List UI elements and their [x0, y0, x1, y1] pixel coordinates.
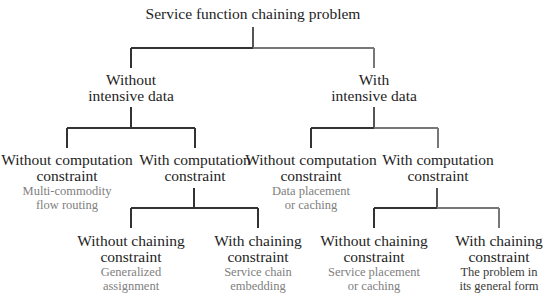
node-without-intensive-data: Without intensive data: [88, 72, 174, 104]
node-with-data-without-computation: Without computation constraint Data plac…: [245, 152, 377, 212]
node-service-placement: Without chaining constraint Service plac…: [320, 233, 427, 293]
node-title-line2: constraint: [1, 168, 133, 184]
node-title-line2: constraint: [214, 249, 302, 265]
node-title-line1: Without computation: [1, 152, 133, 168]
node-with-data-with-computation: With computation constraint: [382, 152, 494, 184]
node-title-line1: With computation: [139, 152, 251, 168]
root-label: Service function chaining problem: [146, 6, 361, 22]
node-description-line2: or caching: [320, 279, 427, 293]
node-title-line1: With chaining: [214, 233, 302, 249]
node-title-line2: constraint: [77, 249, 184, 265]
node-without-data-without-computation: Without computation constraint Multi-com…: [1, 152, 133, 212]
node-general-form: With chaining constraint The problem in …: [455, 233, 543, 293]
node-title-line2: constraint: [320, 249, 427, 265]
node-title-line1: Without chaining: [77, 233, 184, 249]
node-description-line2: its general form: [455, 279, 543, 293]
node-generalized-assignment: Without chaining constraint Generalized …: [77, 233, 184, 293]
node-title-line2: constraint: [382, 168, 494, 184]
node-title-line1: Without chaining: [320, 233, 427, 249]
node-title-line1: Without: [88, 72, 174, 88]
node-title-line1: Without computation: [245, 152, 377, 168]
node-description-line2: or caching: [245, 198, 377, 212]
node-without-data-with-computation: With computation constraint: [139, 152, 251, 184]
node-title-line2: intensive data: [88, 88, 174, 104]
node-with-intensive-data: With intensive data: [331, 72, 417, 104]
node-description-line1: The problem in: [455, 265, 543, 279]
node-description-line1: Generalized: [77, 265, 184, 279]
node-description-line1: Multi-commodity: [1, 184, 133, 198]
node-title-line1: With chaining: [455, 233, 543, 249]
node-title-line1: With computation: [382, 152, 494, 168]
node-title-line1: With: [331, 72, 417, 88]
node-description-line1: Data placement: [245, 184, 377, 198]
node-description-line1: Service placement: [320, 265, 427, 279]
node-description-line2: embedding: [214, 279, 302, 293]
node-service-chain-embedding: With chaining constraint Service chain e…: [214, 233, 302, 293]
root-node: Service function chaining problem: [146, 6, 361, 22]
node-title-line2: constraint: [245, 168, 377, 184]
node-description-line2: assignment: [77, 279, 184, 293]
node-description-line2: flow routing: [1, 198, 133, 212]
node-title-line2: constraint: [139, 168, 251, 184]
node-title-line2: intensive data: [331, 88, 417, 104]
node-title-line2: constraint: [455, 249, 543, 265]
node-description-line1: Service chain: [214, 265, 302, 279]
